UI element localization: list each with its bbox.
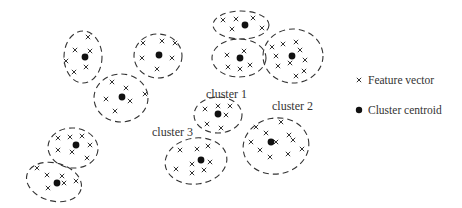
feature-vector-x-icon [234,17,238,21]
feature-vector-x-icon [170,56,174,60]
feature-vector-x-icon [264,131,268,135]
cluster-centroid-dot-icon [156,52,163,59]
feature-vector-x-icon [203,107,207,111]
feature-vector-x-icon [85,156,89,160]
cluster-centroid-dot-icon [356,107,362,113]
feature-vector-x-icon [88,49,92,53]
cluster-centroid-dot-icon [73,142,80,149]
feature-vector-x-icon [208,160,212,164]
feature-vector-x-icon [190,171,194,175]
feature-vector-x-icon [276,64,280,68]
cluster-label: cluster 3 [152,125,193,139]
feature-vector-x-icon [254,125,258,129]
feature-vector-x-icon [300,147,304,151]
cluster-c-2 [239,113,314,180]
feature-vector-x-icon [294,74,298,78]
cluster-centroid-dot-icon [289,53,296,60]
cluster-boundary-dashed [46,126,99,170]
feature-vector-x-icon [230,27,234,31]
cluster-c-1 [194,97,242,133]
feature-vector-x-icon [35,166,39,170]
feature-vector-x-icon [73,48,77,52]
feature-vector-x-icon [141,41,145,45]
feature-vector-x-icon [195,147,199,151]
feature-vector-x-icon [302,69,306,73]
feature-vector-x-icon [248,63,252,67]
feature-vector-x-icon [260,26,264,30]
feature-vector-x-icon [173,41,177,45]
feature-vector-x-icon [155,67,159,71]
feature-vector-x-icon [45,173,49,177]
feature-vector-x-icon [216,104,220,108]
clustering-diagram: cluster 1cluster 2cluster 3 Feature vect… [0,0,462,208]
cluster-c-f [263,29,323,83]
feature-vector-x-icon [64,59,68,63]
feature-vector-x-icon [303,58,307,62]
cluster-centroid-dot-icon [242,22,249,29]
feature-vector-x-icon [113,109,117,113]
feature-vector-x-icon [70,150,74,154]
feature-vector-x-icon [258,148,262,152]
cluster-label: cluster 1 [206,87,247,101]
feature-vector-x-icon [110,80,114,84]
feature-vector-x-icon [228,104,232,108]
feature-vector-x-icon [74,179,78,183]
feature-vector-x-icon [226,65,230,69]
feature-vector-x-icon [224,113,228,117]
feature-vector-x-icon [287,133,291,137]
feature-vector-x-icon [251,16,255,20]
feature-vector-x-icon [60,174,64,178]
feature-vector-x-icon [178,148,182,152]
feature-vector-x-icon [62,181,66,185]
feature-vector-x-icon [88,143,92,147]
feature-vector-x-icon [298,48,302,52]
feature-vector-x-icon [279,120,283,124]
feature-vector-x-icon [124,86,128,90]
cluster-c-c [134,34,182,78]
feature-vector-x-icon [219,126,223,130]
legend-label: Feature vector [368,74,434,86]
feature-vector-x-icon [202,168,206,172]
feature-vector-x-icon [294,40,298,44]
feature-vector-x-icon [274,54,278,58]
cluster-c-g [46,126,99,170]
legend: Feature vectorCluster centroid [356,74,442,116]
feature-vector-x-icon [274,140,278,144]
feature-vector-x-icon [242,49,246,53]
feature-vector-x-icon [270,45,274,49]
feature-vector-x-icon [84,65,88,69]
cluster-centroid-dot-icon [119,94,126,101]
feature-vector-x-icon [281,42,285,46]
feature-vector-x-icon [68,135,72,139]
feature-vector-x-icon [46,186,50,190]
cluster-c-h [22,156,86,207]
cluster-centroid-dot-icon [54,180,61,187]
cluster-labels: cluster 1cluster 2cluster 3 [152,87,313,139]
feature-vector-x-icon [205,122,209,126]
feature-vector-x-icon [206,144,210,148]
feature-vector-x-icon [249,140,253,144]
cluster-c-d [213,11,269,39]
feature-vector-x-icon [56,148,60,152]
legend-item-x-mark: Feature vector [357,74,434,86]
feature-vector-x-icon [86,35,90,39]
cluster-c-a [64,31,102,83]
feature-vector-x-icon [221,18,225,22]
cluster-c-3 [162,134,230,188]
cluster-centroid-dot-icon [198,157,205,164]
feature-vector-x-icon [72,70,76,74]
feature-vector-x-icon [225,53,229,57]
feature-vector-x-icon [143,92,147,96]
cluster-boundary-dashed [162,134,230,188]
feature-vector-x-icon [56,136,60,140]
legend-item-dot: Cluster centroid [356,104,442,116]
feature-vector-x-icon [288,61,292,65]
cluster-c-b [94,74,148,122]
legend-label: Cluster centroid [368,104,442,116]
feature-vector-x-icon [80,134,84,138]
cluster-centroid-dot-icon [268,139,275,146]
cluster-boundary-dashed [239,113,314,180]
feature-vector-x-icon [291,138,295,142]
feature-vector-x-icon [104,97,108,101]
cluster-label: cluster 2 [272,99,313,113]
